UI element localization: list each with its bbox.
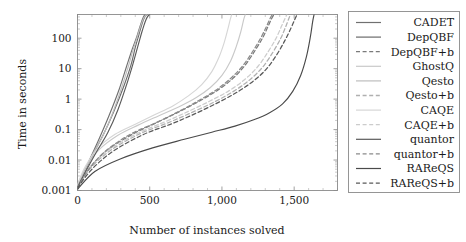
y-tick-label: 1 [65,93,72,105]
x-axis-title-text: Number of instances solved [129,224,284,237]
legend-label: GhostQ [412,60,454,73]
x-tick-label: 0 [74,194,81,206]
y-tick-label: 100 [51,32,71,44]
legend-label: RAReQS [406,162,454,175]
x-axis-title: Number of instances solved [129,224,284,237]
y-tick-label: 0.1 [55,123,72,135]
legend-label: Qesto+b [406,89,454,102]
series-line-depqbf-plus-b [78,15,274,188]
x-tick-label: 500 [140,194,160,206]
legend-label: CAQE+b [404,119,454,132]
y-axis-title: Time in seconds [16,59,29,149]
legend-label: CADET [413,16,454,29]
series-line-qesto-plus-b [78,15,291,187]
y-tick-label: 0.001 [41,184,71,196]
series-line-rareqs-plus-b [78,15,298,189]
x-tick-label: 1,500 [279,194,309,206]
legend-label: Qesto [422,75,455,88]
legend-label: DepQBF [407,31,454,44]
y-tick-label: 10 [58,62,71,74]
cactus-plot-figure: Time in seconds Number of instances solv… [0,0,466,242]
legend-label: CAQE [421,104,454,117]
series-line-quantor-plus-b [78,15,273,189]
y-tick-label: 0.01 [48,154,71,166]
legend-label: RAReQS+b [390,177,454,190]
legend-label: DepQBF+b [391,46,454,59]
series-line-ghostq [78,15,246,186]
y-axis-title-text: Time in seconds [16,59,29,149]
x-tick-label: 1,000 [207,194,237,206]
chart-canvas: Time in seconds Number of instances solv… [0,0,466,242]
series-curves [78,15,315,190]
legend-label: quantor [410,133,455,146]
legend-label: quantor+b [394,148,454,161]
